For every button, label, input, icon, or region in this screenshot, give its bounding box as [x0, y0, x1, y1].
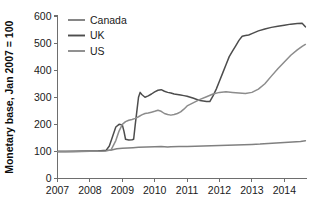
y-tick-label: 200	[34, 118, 52, 130]
y-tick-label: 400	[34, 64, 52, 76]
x-tick-label: 2014	[273, 184, 297, 196]
x-tick-label: 2007	[46, 184, 70, 196]
y-tick-label: 600	[34, 10, 52, 22]
x-tick-label: 2011	[176, 184, 199, 196]
y-tick-label: 300	[34, 91, 52, 103]
y-tick-label: 0	[46, 172, 52, 184]
legend-label-uk: UK	[90, 29, 105, 41]
x-tick-label: 2013	[240, 184, 264, 196]
series-line-uk	[58, 23, 306, 151]
y-tick-label: 500	[34, 37, 52, 49]
x-tick-label: 2009	[111, 184, 135, 196]
chart-figure: 0100200300400500600200720082009201020112…	[0, 0, 314, 210]
line-chart: 0100200300400500600200720082009201020112…	[0, 0, 314, 210]
x-tick-label: 2008	[78, 184, 102, 196]
x-tick-label: 2012	[208, 184, 232, 196]
series-line-canada	[58, 141, 306, 152]
x-tick-label: 2010	[143, 184, 167, 196]
legend-label-canada: Canada	[90, 14, 127, 26]
series-line-us	[58, 44, 306, 151]
legend-label-us: US	[90, 45, 105, 57]
y-axis-title: Monetary base, Jan 2007 = 100	[3, 20, 15, 173]
y-tick-label: 100	[34, 145, 52, 157]
